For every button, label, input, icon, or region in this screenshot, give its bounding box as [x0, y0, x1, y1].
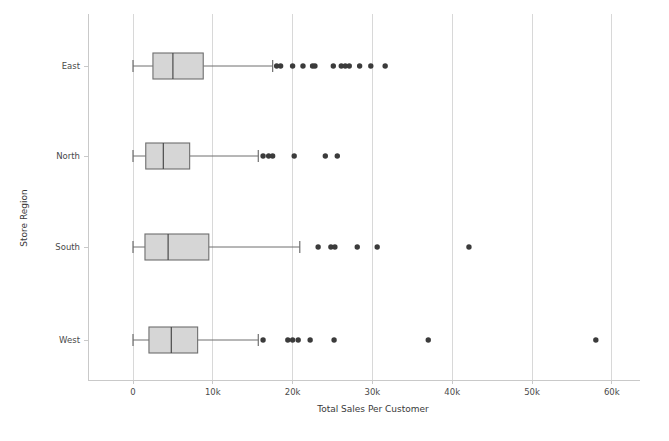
x-tick-labels: 010k20k30k40k50k60k	[130, 387, 619, 397]
outlier-point	[374, 244, 379, 249]
y-tick-label-west: West	[59, 335, 81, 345]
x-tick-label: 50k	[524, 387, 540, 397]
outlier-point	[426, 337, 431, 342]
x-axis-title: Total Sales Per Customer	[316, 404, 429, 414]
outlier-point	[278, 63, 283, 68]
box-iqr	[149, 327, 198, 353]
outlier-point	[347, 63, 352, 68]
x-tick-label: 30k	[365, 387, 381, 397]
outlier-point	[331, 63, 336, 68]
x-tick-label: 60k	[604, 387, 620, 397]
box-iqr	[145, 234, 209, 260]
outlier-point	[312, 63, 317, 68]
box-iqr	[153, 53, 203, 79]
y-tick-labels: EastNorthSouthWest	[55, 61, 80, 345]
x-tick-label: 40k	[444, 387, 460, 397]
grid-lines	[133, 14, 612, 380]
y-tick-label-north: North	[56, 151, 80, 161]
outlier-point	[331, 337, 336, 342]
x-tick-label: 0	[130, 387, 135, 397]
box-group-west	[133, 327, 599, 353]
x-tick-label: 10k	[205, 387, 221, 397]
box-group-north	[133, 143, 340, 169]
chart-canvas: 010k20k30k40k50k60k EastNorthSouthWest T…	[0, 0, 669, 441]
outlier-point	[355, 244, 360, 249]
outlier-point	[315, 244, 320, 249]
outlier-point	[323, 153, 328, 158]
outlier-point	[290, 63, 295, 68]
outlier-point	[593, 337, 598, 342]
box-iqr	[146, 143, 190, 169]
outlier-point	[368, 63, 373, 68]
outlier-point	[290, 337, 295, 342]
box-group-south	[133, 234, 472, 260]
y-tick-label-south: South	[55, 242, 80, 252]
outlier-point	[382, 63, 387, 68]
outlier-point	[357, 63, 362, 68]
outlier-point	[332, 244, 337, 249]
outlier-point	[291, 153, 296, 158]
outlier-point	[285, 337, 290, 342]
box-group-east	[133, 53, 388, 79]
outlier-point	[295, 337, 300, 342]
boxplot-chart: 010k20k30k40k50k60k EastNorthSouthWest T…	[0, 0, 669, 441]
outlier-point	[260, 153, 265, 158]
y-axis-title: Store Region	[19, 189, 29, 246]
outlier-point	[335, 153, 340, 158]
outlier-point	[300, 63, 305, 68]
box-plot-series	[133, 53, 599, 353]
outlier-point	[260, 337, 265, 342]
outlier-point	[466, 244, 471, 249]
outlier-point	[307, 337, 312, 342]
x-tick-label: 20k	[285, 387, 301, 397]
y-tick-label-east: East	[62, 61, 81, 71]
outlier-point	[270, 153, 275, 158]
